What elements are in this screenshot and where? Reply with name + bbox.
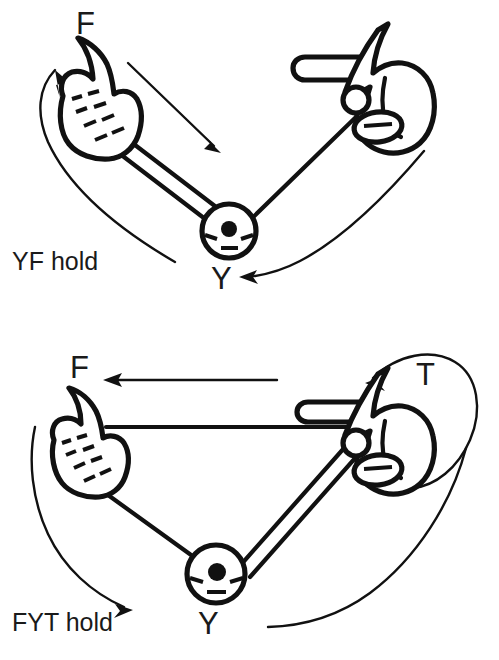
- curved-arrow-right-to-y-icon: [239, 151, 424, 284]
- double-bar-connector-y-hand: [238, 447, 357, 577]
- panel-caption-fyt-hold: FYT hold: [12, 610, 113, 635]
- bar-connector-f-y: [108, 495, 198, 560]
- joint-circle-y-icon: [187, 545, 245, 603]
- node-label-t-fyt: T: [416, 359, 435, 390]
- node-label-f-yf: F: [76, 8, 95, 39]
- figure-root: F Y YF hold: [0, 0, 499, 660]
- fist-hand-f-icon: [60, 38, 141, 159]
- single-bar-connector-y-hand: [244, 117, 356, 226]
- panel-fyt-hold: F T Y FYT hold: [0, 330, 499, 660]
- pointing-hand-icon: [293, 24, 434, 153]
- joint-circle-y-icon: [202, 204, 256, 258]
- fist-hand-f-icon: [52, 388, 128, 497]
- panel-yf-hold-artwork: [0, 0, 499, 330]
- panel-caption-yf-hold: YF hold: [12, 249, 98, 274]
- panel-yf-hold: F Y YF hold: [0, 0, 499, 330]
- node-label-f-fyt: F: [70, 352, 89, 383]
- straight-horizontal-arrow-icon: [103, 373, 277, 387]
- node-label-y-fyt: Y: [198, 608, 219, 639]
- node-label-y-yf: Y: [211, 263, 232, 294]
